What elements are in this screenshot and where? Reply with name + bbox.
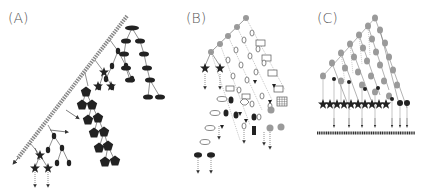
star-row	[318, 99, 391, 109]
panel-c-tree	[317, 15, 415, 134]
grid-square	[277, 97, 287, 106]
diagram-canvas	[0, 0, 423, 196]
panel-a-tree	[14, 16, 165, 186]
panel-b-tree	[194, 15, 287, 172]
